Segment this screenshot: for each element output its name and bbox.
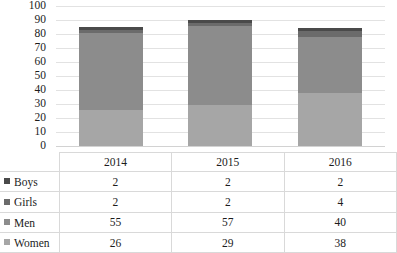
table-cell-women-2015: 29 bbox=[172, 233, 284, 253]
table-cell-girls-2016: 4 bbox=[284, 192, 396, 212]
table-column-header-2015: 2015 bbox=[172, 153, 284, 172]
y-axis-tick-100: 100 bbox=[0, 0, 52, 12]
plot-area: 0102030405060708090100 bbox=[0, 0, 397, 156]
table-cell-boys-2014: 2 bbox=[59, 172, 171, 192]
legend-label-men: Men bbox=[14, 217, 35, 229]
y-axis-tick-0: 0 bbox=[0, 140, 52, 152]
y-axis-tick-40: 40 bbox=[0, 84, 52, 96]
bar-stack-2015 bbox=[188, 20, 252, 146]
bar-group-2014[interactable] bbox=[56, 0, 166, 156]
y-axis-tick-60: 60 bbox=[0, 56, 52, 68]
y-axis-tick-30: 30 bbox=[0, 98, 52, 110]
bar-segment-women-2014[interactable] bbox=[79, 110, 143, 146]
bar-stack-2014 bbox=[79, 27, 143, 146]
table-header-row: 201420152016 bbox=[0, 153, 397, 172]
table-cell-boys-2016: 2 bbox=[284, 172, 396, 192]
legend-swatch-icon-boys bbox=[4, 178, 10, 184]
bar-stack-2016 bbox=[298, 28, 362, 146]
y-axis-tick-80: 80 bbox=[0, 28, 52, 40]
legend-label-girls: Girls bbox=[14, 197, 37, 209]
table-cell-men-2016: 40 bbox=[284, 212, 396, 232]
legend-label-women: Women bbox=[14, 237, 49, 249]
table-cell-women-2014: 26 bbox=[59, 233, 171, 253]
bar-segment-men-2016[interactable] bbox=[298, 37, 362, 93]
legend-item-girls[interactable]: Girls bbox=[0, 192, 59, 212]
y-axis-tick-labels: 0102030405060708090100 bbox=[0, 0, 52, 156]
legend-label-boys: Boys bbox=[14, 176, 38, 188]
bar-segment-men-2015[interactable] bbox=[188, 26, 252, 106]
y-axis-tick-50: 50 bbox=[0, 70, 52, 82]
legend-swatch-icon-girls bbox=[4, 199, 10, 205]
table-cell-women-2016: 38 bbox=[284, 233, 396, 253]
bar-segment-women-2015[interactable] bbox=[188, 105, 252, 146]
bar-group-2015[interactable] bbox=[166, 0, 276, 156]
table-column-header-2016: 2016 bbox=[284, 153, 396, 172]
legend-item-women[interactable]: Women bbox=[0, 233, 59, 253]
table-cell-men-2015: 57 bbox=[172, 212, 284, 232]
bar-series-container bbox=[56, 0, 385, 156]
data-table: 201420152016Boys222Girls224Men555740Wome… bbox=[0, 152, 397, 253]
table-row: Women262938 bbox=[0, 233, 397, 253]
legend-item-men[interactable]: Men bbox=[0, 212, 59, 232]
table-cell-girls-2015: 2 bbox=[172, 192, 284, 212]
table-row: Men555740 bbox=[0, 212, 397, 232]
bar-segment-women-2016[interactable] bbox=[298, 93, 362, 146]
legend-swatch-icon-men bbox=[4, 219, 10, 225]
table-column-header-2014: 2014 bbox=[59, 153, 171, 172]
y-axis-tick-10: 10 bbox=[0, 126, 52, 138]
table-corner-cell bbox=[0, 153, 59, 172]
table-row: Girls224 bbox=[0, 192, 397, 212]
legend-swatch-icon-women bbox=[4, 239, 10, 245]
y-axis-tick-20: 20 bbox=[0, 112, 52, 124]
bar-segment-men-2014[interactable] bbox=[79, 33, 143, 110]
table-cell-boys-2015: 2 bbox=[172, 172, 284, 192]
table-cell-girls-2014: 2 bbox=[59, 192, 171, 212]
table-row: Boys222 bbox=[0, 172, 397, 192]
legend-item-boys[interactable]: Boys bbox=[0, 172, 59, 192]
y-axis-tick-70: 70 bbox=[0, 42, 52, 54]
y-axis-tick-90: 90 bbox=[0, 14, 52, 26]
table-cell-men-2014: 55 bbox=[59, 212, 171, 232]
bar-group-2016[interactable] bbox=[275, 0, 385, 156]
